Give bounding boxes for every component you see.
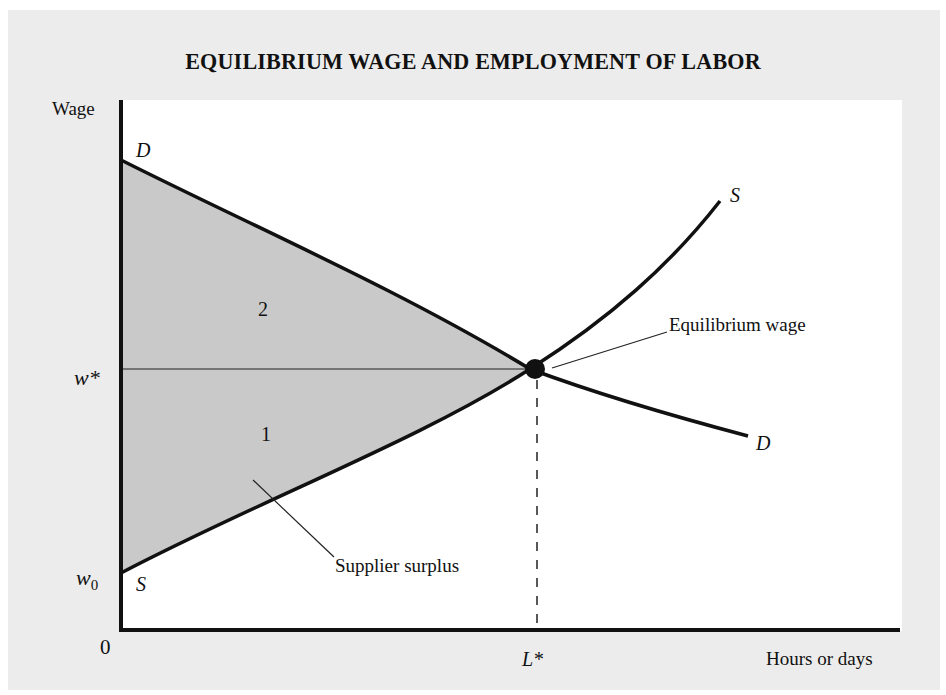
- origin-label: 0: [100, 635, 111, 660]
- supplier-surplus-annotation: Supplier surplus: [335, 555, 459, 577]
- demand-label-end: D: [756, 432, 770, 455]
- chart-title: EQUILIBRIUM WAGE AND EMPLOYMENT OF LABOR: [38, 48, 908, 75]
- w0-tick-label: w0: [76, 565, 98, 594]
- supply-label-end: S: [730, 184, 740, 207]
- y-axis-label: Wage: [52, 98, 95, 120]
- equilibrium-leader-line: [552, 332, 667, 368]
- region-1-label: 1: [261, 423, 271, 446]
- equilibrium-wage-annotation: Equilibrium wage: [669, 314, 806, 336]
- l-star-tick-label: L*: [522, 648, 543, 671]
- equilibrium-point: [525, 359, 545, 379]
- region-2-label: 2: [258, 298, 268, 321]
- demand-label-top: D: [136, 139, 150, 162]
- x-axis-label: Hours or days: [766, 648, 873, 670]
- w-star-tick-label: w*: [74, 365, 100, 391]
- supply-label-bottom: S: [136, 573, 146, 596]
